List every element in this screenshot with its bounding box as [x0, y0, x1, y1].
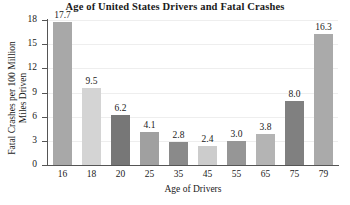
bar — [198, 146, 217, 165]
bar-value-label: 17.7 — [47, 11, 78, 21]
bar-value-label: 3.8 — [250, 123, 281, 133]
bar — [169, 142, 188, 165]
bar — [140, 132, 159, 165]
bar-value-label: 3.0 — [221, 130, 252, 140]
gridline — [48, 68, 338, 69]
y-tick-label: 0 — [17, 160, 37, 170]
plot-area: 17.79.56.24.12.82.43.03.88.016.3 — [48, 20, 338, 165]
y-tick-label: 18 — [17, 15, 37, 25]
x-tick-label: 65 — [250, 169, 281, 179]
y-tick-label: 12 — [17, 63, 37, 73]
y-tick-label: 9 — [17, 88, 37, 98]
x-tick-label: 18 — [76, 169, 107, 179]
bar — [227, 141, 246, 165]
bar-value-label: 6.2 — [105, 104, 136, 114]
x-tick-label: 35 — [163, 169, 194, 179]
chart-figure: Age of United States Drivers and Fatal C… — [0, 0, 350, 205]
x-tick-label: 16 — [47, 169, 78, 179]
x-axis-title: Age of Drivers — [48, 184, 338, 194]
x-tick-label: 45 — [192, 169, 223, 179]
x-tick-label: 25 — [134, 169, 165, 179]
bar — [285, 101, 304, 165]
x-axis-line — [47, 165, 339, 166]
x-tick-label: 20 — [105, 169, 136, 179]
gridline — [48, 44, 338, 45]
bar-value-label: 2.4 — [192, 135, 223, 145]
bar — [314, 34, 333, 165]
bar — [82, 88, 101, 165]
x-tick-label: 75 — [279, 169, 310, 179]
bar-value-label: 8.0 — [279, 90, 310, 100]
x-tick-label: 55 — [221, 169, 252, 179]
bar — [256, 134, 275, 165]
chart-title: Age of United States Drivers and Fatal C… — [0, 1, 350, 12]
gridline — [48, 20, 338, 21]
y-tick-label: 6 — [17, 112, 37, 122]
bar-value-label: 4.1 — [134, 121, 165, 131]
bar-value-label: 9.5 — [76, 77, 107, 87]
bar — [111, 115, 130, 165]
y-tick-label: 15 — [17, 39, 37, 49]
y-tick-label: 3 — [17, 136, 37, 146]
x-tick-label: 79 — [308, 169, 339, 179]
bar — [53, 22, 72, 165]
bar-value-label: 2.8 — [163, 131, 194, 141]
y-axis-title: Fatal Crashes per 100 Million Miles Driv… — [6, 29, 30, 167]
bar-value-label: 16.3 — [308, 23, 339, 33]
